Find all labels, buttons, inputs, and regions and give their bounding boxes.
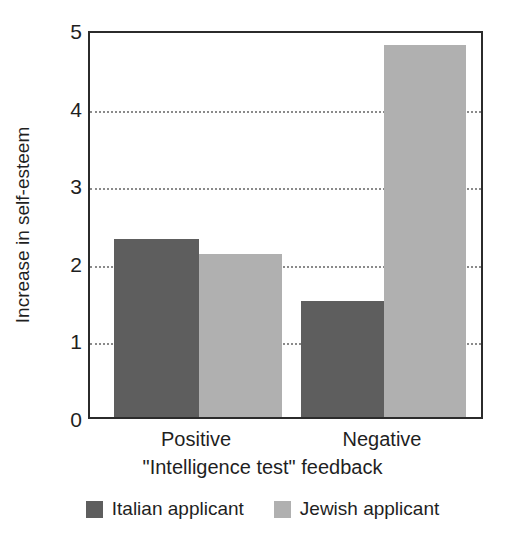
bar-chart-figure: Increase in self-esteem 0 1 2 3 4 5 Posi… — [0, 0, 525, 554]
bar-negative-italian — [301, 301, 384, 417]
legend-swatch-icon-italian — [86, 501, 103, 518]
y-tick-label-5: 5 — [58, 21, 82, 42]
legend-item-italian: Italian applicant — [86, 498, 244, 520]
legend-label-italian: Italian applicant — [112, 498, 244, 520]
bar-positive-italian — [114, 239, 199, 418]
y-tick-label-1: 1 — [58, 331, 82, 352]
y-tick-label-4: 4 — [58, 98, 82, 119]
y-tick-label-3: 3 — [58, 176, 82, 197]
bar-negative-jewish — [384, 45, 466, 418]
x-tick-label-negative: Negative — [343, 428, 422, 451]
y-tick-label-2: 2 — [58, 253, 82, 274]
x-tick-label-positive: Positive — [161, 428, 231, 451]
bar-positive-jewish — [199, 254, 282, 417]
legend-label-jewish: Jewish applicant — [300, 498, 439, 520]
legend-item-jewish: Jewish applicant — [274, 498, 439, 520]
y-axis-title: Increase in self-esteem — [8, 31, 38, 419]
y-tick-label-0: 0 — [58, 409, 82, 430]
chart-legend: Italian applicant Jewish applicant — [0, 498, 525, 520]
x-axis-title: "Intelligence test" feedback — [0, 456, 525, 479]
plot-area — [88, 31, 483, 419]
y-axis-title-text: Increase in self-esteem — [12, 127, 34, 323]
legend-swatch-icon-jewish — [274, 501, 291, 518]
